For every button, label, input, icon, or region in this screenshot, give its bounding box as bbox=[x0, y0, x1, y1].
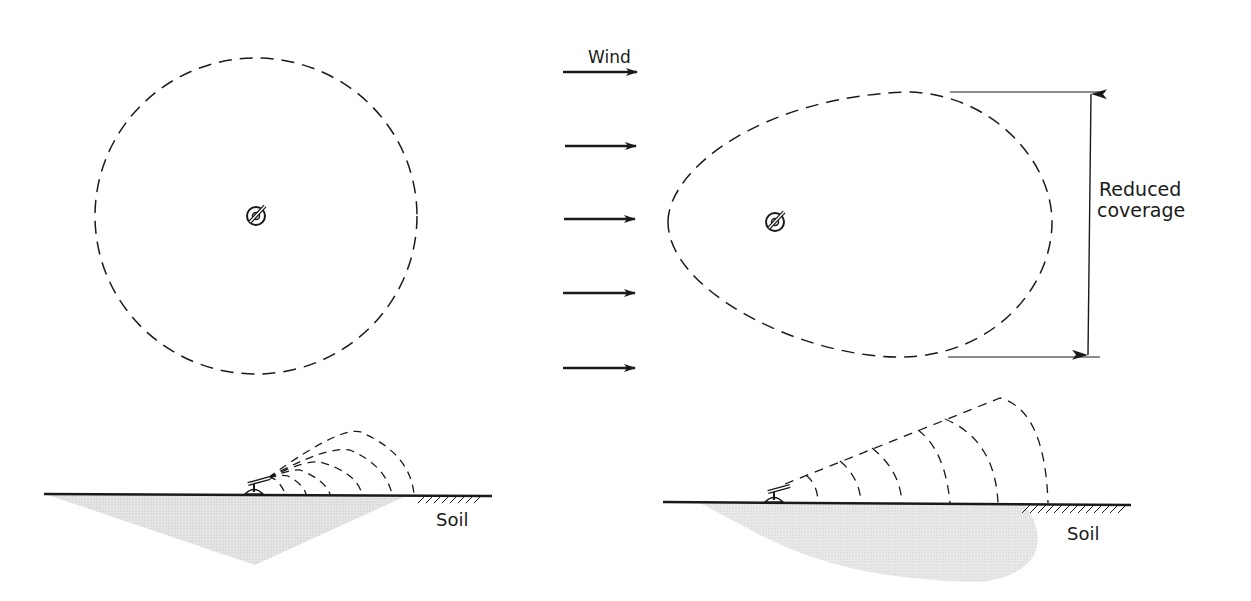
no-wind-plan-view bbox=[95, 58, 417, 374]
water-trajectories bbox=[785, 398, 1048, 503]
wetted-soil-zone bbox=[700, 503, 1038, 582]
reduced-coverage-label: Reduced bbox=[1099, 178, 1181, 200]
wind-label: Wind bbox=[588, 47, 631, 67]
sprinkler-icon bbox=[245, 478, 270, 494]
sprinkler-icon bbox=[765, 486, 790, 502]
wetted-soil-zone bbox=[48, 495, 408, 565]
reduced-coverage-label: coverage bbox=[1097, 199, 1185, 221]
no-wind-profile-view: Soil bbox=[44, 431, 492, 565]
wind-arrows: Wind bbox=[563, 47, 637, 368]
sprinkler-icon bbox=[247, 206, 265, 225]
egg-coverage-pattern bbox=[668, 92, 1052, 357]
soil-hatching bbox=[1022, 505, 1126, 513]
sprinkler-icon bbox=[766, 212, 784, 231]
water-trajectories bbox=[268, 431, 414, 494]
reduced-coverage-dimension-arrow bbox=[1088, 94, 1091, 355]
sprinkler-wind-diagram: Wind Reduced coverage Soil bbox=[0, 0, 1251, 601]
wind-plan-view: Reduced coverage bbox=[668, 92, 1185, 357]
soil-label: Soil bbox=[436, 509, 468, 530]
soil-label: Soil bbox=[1067, 523, 1099, 544]
wind-profile-view: Soil bbox=[663, 398, 1131, 582]
